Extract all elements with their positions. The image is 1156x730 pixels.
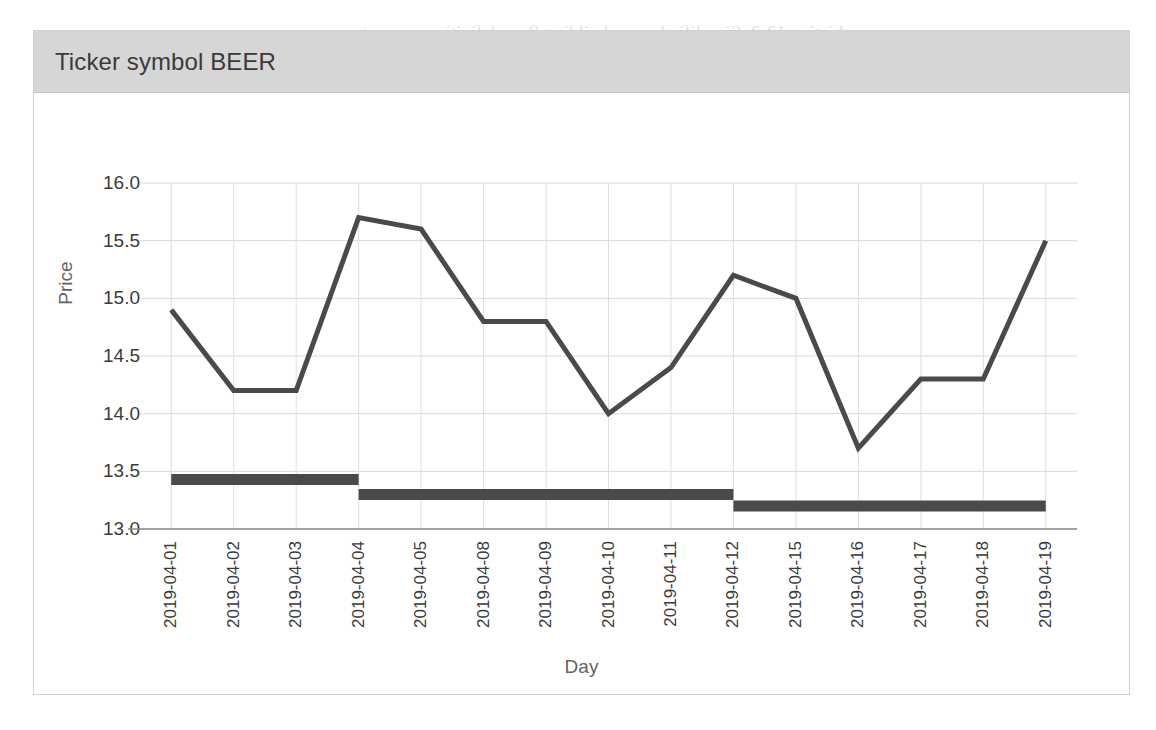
- x-axis-tick-label: 2019-04-16: [848, 541, 868, 628]
- page-root: Ticker symbol BEER Price 13.013.514.014.…: [0, 0, 1156, 730]
- x-axis-tick-label: 2019-04-04: [349, 541, 369, 628]
- x-axis-tick-label: 2019-04-15: [786, 541, 806, 628]
- x-axis-tick-label: 2019-04-10: [599, 541, 619, 628]
- chart-card-header: Ticker symbol BEER: [34, 31, 1129, 93]
- x-axis-tick-label: 2019-04-09: [536, 541, 556, 628]
- page-title: Ticker symbol BEER: [55, 48, 276, 76]
- plot-area: Price 13.013.514.014.515.015.516.0 2019-…: [34, 93, 1129, 694]
- chart-card: Ticker symbol BEER Price 13.013.514.014.…: [33, 30, 1130, 695]
- x-axis-tick-label: 2019-04-01: [161, 541, 181, 628]
- x-axis-tick-label: 2019-04-12: [723, 541, 743, 628]
- x-axis-title: Day: [34, 656, 1129, 678]
- x-axis-tick-label: 2019-04-08: [474, 541, 494, 628]
- x-axis-tick-label: 2019-04-05: [411, 541, 431, 628]
- x-axis-tick-label: 2019-04-11: [661, 541, 681, 627]
- chart-card-body: Price 13.013.514.014.515.015.516.0 2019-…: [34, 93, 1129, 694]
- x-axis-tick-label: 2019-04-18: [973, 541, 993, 628]
- x-axis-tick-labels: 2019-04-012019-04-022019-04-032019-04-04…: [34, 541, 1129, 661]
- x-axis-tick-label: 2019-04-02: [224, 541, 244, 628]
- x-axis-tick-label: 2019-04-03: [286, 541, 306, 628]
- x-axis-tick-label: 2019-04-19: [1036, 541, 1056, 628]
- x-axis-tick-label: 2019-04-17: [911, 541, 931, 628]
